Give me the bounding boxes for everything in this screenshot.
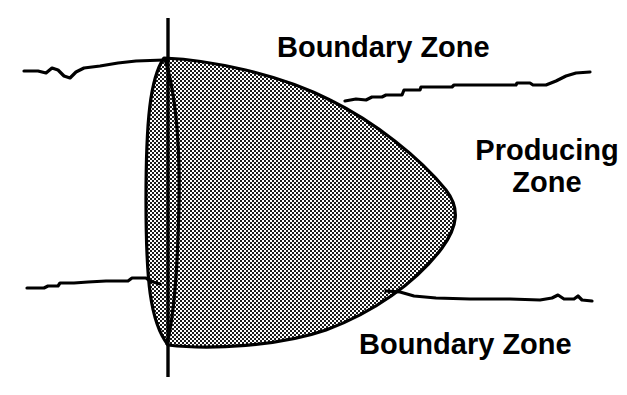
label-producing-zone-line2: Zone: [473, 166, 621, 198]
diagram-canvas: Boundary Zone ProducingZone Boundary Zon…: [0, 0, 627, 395]
upper-right-boundary-line: [345, 72, 590, 101]
label-producing-zone: ProducingZone: [473, 134, 621, 199]
upper-left-boundary-line: [24, 60, 164, 78]
label-boundary-zone-bottom: Boundary Zone: [359, 328, 572, 360]
producing-zone-shape: [146, 58, 455, 347]
lower-left-boundary-line: [27, 278, 160, 288]
label-producing-zone-line1: Producing: [475, 134, 618, 166]
lower-right-boundary-line: [386, 291, 592, 301]
label-boundary-zone-top: Boundary Zone: [277, 31, 490, 63]
